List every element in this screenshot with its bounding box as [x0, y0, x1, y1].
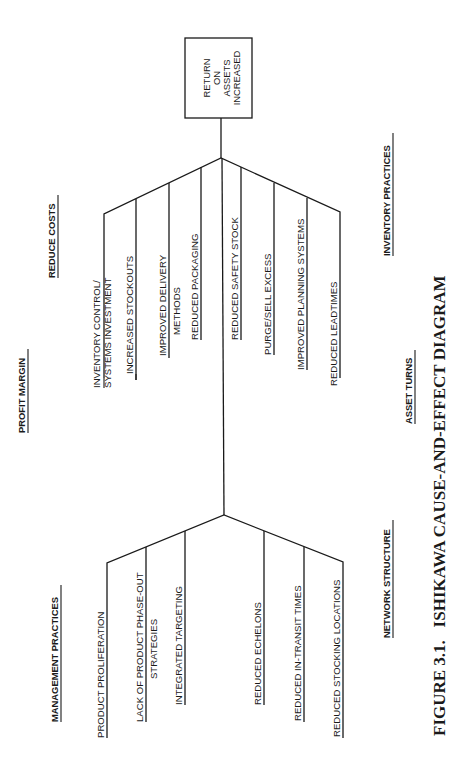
svg-text:MANAGEMENT PRACTICES: MANAGEMENT PRACTICES — [49, 597, 60, 722]
svg-text:REDUCED ECHELONS: REDUCED ECHELONS — [252, 602, 263, 705]
svg-text:INTEGRATED TARGETING: INTEGRATED TARGETING — [173, 586, 184, 705]
svg-text:REDUCED PACKAGING: REDUCED PACKAGING — [189, 234, 200, 340]
svg-text:PURGE/SELL EXCESS: PURGE/SELL EXCESS — [262, 254, 273, 355]
ishikawa-diagram: RETURN ON ASSETS INCREASED INVENTORY CON… — [0, 0, 450, 761]
svg-text:REDUCED IN-TRANSIT TIMES: REDUCED IN-TRANSIT TIMES — [292, 585, 303, 721]
svg-text:STRATEGIES: STRATEGIES — [148, 619, 159, 679]
cause-inventory-control: INVENTORY CONTROL/ SYSTEMS INVESTMENT — [91, 278, 113, 388]
svg-text:IMPROVED PLANNING SYSTEMS: IMPROVED PLANNING SYSTEMS — [295, 219, 306, 370]
cause-reduced-packaging: REDUCED PACKAGING — [189, 234, 200, 340]
cause-reduced-leadtimes: REDUCED LEADTIMES — [328, 282, 339, 386]
effect-box-text: RETURN ON ASSETS INCREASED — [201, 50, 242, 105]
figure-caption: FIGURE 3.1. ISHIKAWA CAUSE-AND-EFFECT DI… — [430, 275, 449, 736]
svg-text:IMPROVED DELIVERY: IMPROVED DELIVERY — [157, 254, 168, 356]
svg-text:INVENTORY PRACTICES: INVENTORY PRACTICES — [381, 145, 392, 256]
category-inventory-practices: INVENTORY PRACTICES — [381, 133, 393, 256]
svg-text:REDUCE COSTS: REDUCE COSTS — [46, 204, 57, 279]
category-reduce-costs: REDUCE COSTS — [46, 195, 58, 278]
cause-reduced-stocking-locations: REDUCED STOCKING LOCATIONS — [331, 580, 342, 737]
svg-text:REDUCED SAFETY STOCK: REDUCED SAFETY STOCK — [229, 217, 240, 340]
svg-text:NETWORK STRUCTURE: NETWORK STRUCTURE — [381, 529, 392, 638]
svg-text:PROFIT MARGIN: PROFIT MARGIN — [16, 358, 27, 433]
cause-reduced-echelons: REDUCED ECHELONS — [252, 602, 263, 705]
category-profit-margin: PROFIT MARGIN — [16, 349, 28, 433]
svg-text:REDUCED STOCKING LOCATIONS: REDUCED STOCKING LOCATIONS — [331, 580, 342, 737]
svg-text:INCREASED: INCREASED — [231, 50, 242, 105]
category-asset-turns: ASSET TURNS — [403, 350, 415, 424]
cause-improved-planning-systems: IMPROVED PLANNING SYSTEMS — [295, 219, 306, 370]
cause-reduced-safety-stock: REDUCED SAFETY STOCK — [229, 217, 240, 340]
cause-integrated-targeting: INTEGRATED TARGETING — [173, 586, 184, 705]
svg-text:LACK OF PRODUCT PHASE-OUT: LACK OF PRODUCT PHASE-OUT — [134, 572, 145, 722]
svg-text:PRODUCT PROLIFERATION: PRODUCT PROLIFERATION — [95, 611, 106, 738]
svg-text:METHODS: METHODS — [171, 287, 182, 335]
cause-increased-stockouts: INCREASED STOCKOUTS — [124, 256, 135, 374]
svg-text:INVENTORY CONTROL/: INVENTORY CONTROL/ — [91, 280, 102, 388]
svg-text:SYSTEMS INVESTMENT: SYSTEMS INVESTMENT — [102, 278, 113, 388]
cause-reduced-in-transit: REDUCED IN-TRANSIT TIMES — [292, 585, 303, 721]
svg-text:INCREASED STOCKOUTS: INCREASED STOCKOUTS — [124, 256, 135, 374]
svg-text:ASSET TURNS: ASSET TURNS — [403, 358, 414, 424]
spine-main — [222, 158, 224, 515]
cause-product-proliferation: PRODUCT PROLIFERATION — [95, 611, 106, 738]
category-management-practices: MANAGEMENT PRACTICES — [49, 585, 61, 722]
cause-purge-sell-excess: PURGE/SELL EXCESS — [262, 254, 273, 355]
svg-text:REDUCED LEADTIMES: REDUCED LEADTIMES — [328, 282, 339, 386]
category-network-structure: NETWORK STRUCTURE — [381, 520, 393, 638]
